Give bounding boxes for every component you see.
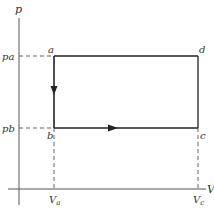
vc-label: Vc xyxy=(193,194,204,207)
point-c-label: c xyxy=(200,130,206,141)
va-label: Va xyxy=(49,194,60,207)
point-a-label: a xyxy=(48,44,54,55)
point-b-label: b xyxy=(47,130,53,141)
pb-label: pb xyxy=(2,123,15,134)
y-axis-label: p xyxy=(15,3,22,16)
pv-diagram: p V pa pb Va Vc a d b c xyxy=(0,0,214,217)
arrow-down-icon xyxy=(51,86,58,95)
point-d-label: d xyxy=(199,44,205,55)
pa-label: pa xyxy=(2,51,14,62)
arrow-right-icon xyxy=(108,125,118,132)
x-axis-label: V xyxy=(207,183,214,196)
